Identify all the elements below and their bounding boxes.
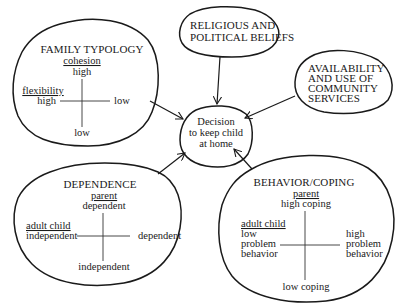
arrow-religious-to-decision (217, 57, 220, 104)
cohesion-high-label: high (73, 66, 92, 77)
arrow-dependence-to-decision (158, 153, 185, 174)
dependence-title: DEPENDENCE (63, 178, 136, 190)
adult-child-independent-label: independent (26, 230, 77, 241)
decision-line-1: Decision (197, 116, 235, 127)
arrow-community-to-decision (245, 96, 295, 118)
decision-line-2: to keep child (189, 127, 244, 138)
flexibility-high-label: high (37, 95, 56, 106)
family-typology-title: FAMILY TYPOLOGY (40, 43, 143, 55)
high-coping-label: high coping (281, 198, 332, 209)
religious-line-2: POLITICAL BELIEFS (190, 31, 294, 43)
low-problem-line-3: behavior (241, 248, 278, 259)
religious-line-1: RELIGIOUS AND (190, 19, 275, 31)
community-line-4: SERVICES (308, 92, 360, 104)
religious-beliefs-node: RELIGIOUS AND POLITICAL BELIEFS (180, 7, 295, 57)
parent-dependent-label: dependent (82, 200, 125, 211)
dependence-node: DEPENDENCE parent dependent adult child … (14, 163, 181, 285)
adult-child-dependent-label: dependent (138, 230, 181, 241)
cohesion-axis-label: cohesion (63, 55, 101, 66)
parent-independent-label: independent (78, 261, 129, 272)
flexibility-low-label: low (114, 95, 130, 106)
cohesion-low-label: low (74, 127, 90, 138)
high-problem-line-3: behavior (346, 248, 383, 259)
decision-diagram: FAMILY TYPOLOGY cohesion high flexibilit… (0, 0, 400, 307)
decision-line-3: at home (199, 138, 233, 149)
community-services-node: AVAILABILITY AND USE OF COMMUNITY SERVIC… (295, 50, 392, 113)
family-typology-node: FAMILY TYPOLOGY cohesion high flexibilit… (13, 19, 158, 146)
behavior-coping-node: BEHAVIOR/COPING parent high coping adult… (219, 155, 394, 302)
arrow-family-to-decision (150, 101, 183, 119)
behavior-coping-title: BEHAVIOR/COPING (254, 176, 355, 188)
low-coping-label: low coping (283, 281, 331, 292)
